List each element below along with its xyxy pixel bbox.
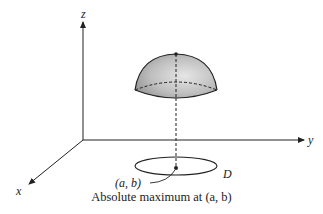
figure-caption: Absolute maximum at (a, b): [0, 190, 323, 205]
z-axis-label: z: [81, 8, 86, 20]
point-label: (a, b): [115, 177, 141, 189]
diagram-canvas: [0, 0, 323, 214]
region-label: D: [223, 168, 232, 180]
surface-dome: [135, 52, 217, 98]
y-axis-label: y: [308, 134, 313, 146]
point-ab: [174, 166, 178, 170]
point-pointer: [150, 170, 175, 183]
x-axis: [29, 140, 83, 184]
